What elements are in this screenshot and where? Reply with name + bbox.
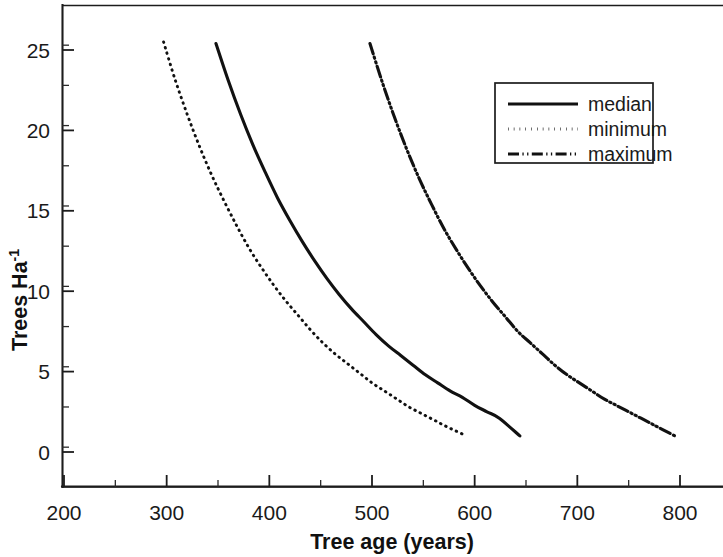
- x-tick-label: 300: [149, 501, 184, 524]
- x-tick-label: 600: [457, 501, 492, 524]
- x-tick-label: 700: [560, 501, 595, 524]
- y-axis-ticks: [62, 45, 74, 452]
- x-tick-label: 400: [252, 501, 287, 524]
- y-tick-label: 25: [27, 39, 50, 62]
- y-tick-label: 15: [27, 199, 50, 222]
- x-axis-tick-labels: 200300400500600700800: [46, 501, 697, 524]
- chart-canvas: 0510152025 200300400500600700800 Trees H…: [0, 0, 723, 557]
- svg-text:Trees Ha-1: Trees Ha-1: [6, 249, 32, 351]
- chart-figure: 0510152025 200300400500600700800 Trees H…: [0, 0, 723, 557]
- y-axis-tick-labels: 0510152025: [27, 39, 50, 464]
- y-tick-label: 0: [38, 441, 50, 464]
- legend-label-median: median: [588, 93, 652, 115]
- x-tick-label: 200: [46, 501, 81, 524]
- y-tick-label: 5: [38, 360, 50, 383]
- x-tick-label: 800: [662, 501, 697, 524]
- y-axis-title: Trees Ha-1: [6, 249, 32, 351]
- legend-label-maximum: maximum: [588, 143, 673, 165]
- plot-frame: [62, 6, 723, 488]
- chart-legend: medianminimummaximum: [495, 83, 673, 165]
- series-line-minimum: [164, 42, 467, 436]
- y-axis-title-base: Trees Ha: [8, 260, 32, 351]
- x-tick-label: 500: [354, 501, 389, 524]
- x-axis-title: Tree age (years): [310, 530, 474, 554]
- legend-label-minimum: minimum: [588, 118, 667, 140]
- series-line-median: [216, 44, 520, 436]
- y-axis-title-exponent: -1: [6, 249, 22, 262]
- x-axis-ticks: [64, 475, 680, 487]
- y-tick-label: 20: [27, 119, 50, 142]
